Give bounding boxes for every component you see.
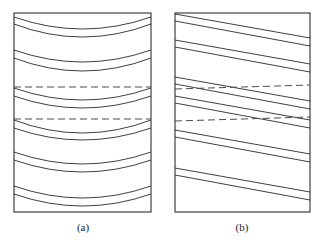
figure-canvas: (a) (b) (0, 0, 325, 240)
figure-container: (a) (b) (0, 0, 325, 240)
panel-a: (a) (14, 13, 151, 234)
panel-caption: (b) (236, 221, 249, 234)
panel-b: (b) (175, 13, 310, 234)
panel-frame-b (175, 13, 310, 212)
panel-caption: (a) (77, 221, 90, 234)
panel-frame-a (14, 13, 151, 212)
